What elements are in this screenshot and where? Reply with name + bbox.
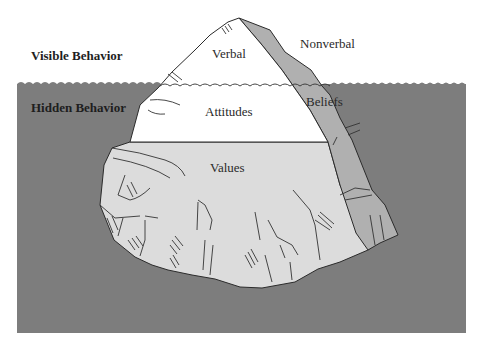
hidden-behavior-label: Hidden Behavior xyxy=(31,100,126,116)
attitudes-label: Attitudes xyxy=(205,104,253,120)
beliefs-label: Beliefs xyxy=(306,94,343,110)
iceberg-diagram: Visible Behavior Hidden Behavior Verbal … xyxy=(0,0,478,348)
verbal-label: Verbal xyxy=(212,46,246,62)
water-waves-right xyxy=(330,83,466,93)
values-label: Values xyxy=(210,160,245,176)
visible-behavior-label: Visible Behavior xyxy=(31,48,123,64)
nonverbal-label: Nonverbal xyxy=(300,36,355,52)
